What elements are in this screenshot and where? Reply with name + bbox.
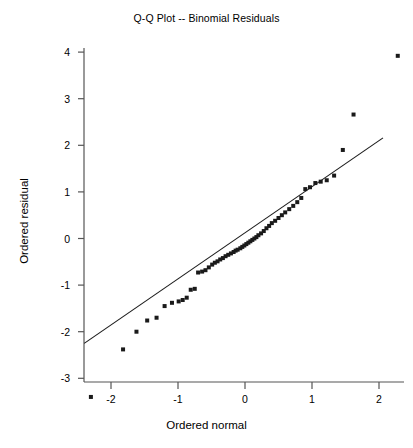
data-point-marker: [313, 181, 317, 185]
data-point-marker: [134, 330, 138, 334]
data-points: [89, 54, 400, 399]
data-point-marker: [299, 196, 303, 200]
data-point-marker: [185, 296, 189, 300]
x-tick-label: 1: [309, 393, 315, 405]
reference-line: [84, 138, 383, 344]
y-tick-label: 1: [64, 186, 70, 198]
data-point-marker: [181, 298, 185, 302]
y-tick-label: 3: [64, 93, 70, 105]
data-point-marker: [319, 180, 323, 184]
data-point-marker: [283, 210, 287, 214]
x-tick-label: 0: [242, 393, 248, 405]
x-tick-label: -1: [173, 393, 182, 405]
y-tick-label: 2: [64, 139, 70, 151]
y-axis-ticks: -3-2-101234: [61, 46, 84, 384]
data-point-marker: [193, 287, 197, 291]
qq-plot-figure: Q-Q Plot -- Binomial Residuals -3-2-1012…: [0, 0, 413, 448]
data-point-marker: [189, 288, 193, 292]
data-point-marker: [287, 207, 291, 211]
data-point-marker: [308, 185, 312, 189]
data-point-marker: [89, 395, 93, 399]
data-point-marker: [145, 319, 149, 323]
data-point-marker: [332, 174, 336, 178]
data-point-marker: [325, 178, 329, 182]
data-point-marker: [295, 200, 299, 204]
y-tick-label: -3: [61, 372, 70, 384]
data-point-marker: [341, 148, 345, 152]
qq-reference-line: [84, 138, 383, 344]
x-axis-ticks: -2-1012: [106, 382, 382, 405]
data-point-marker: [155, 316, 159, 320]
data-point-marker: [170, 301, 174, 305]
axes: [84, 48, 404, 382]
data-point-marker: [196, 271, 200, 275]
y-tick-label: -1: [61, 279, 70, 291]
data-point-marker: [303, 187, 307, 191]
x-axis-label: Ordered normal: [0, 419, 413, 431]
data-point-marker: [177, 299, 181, 303]
plot-canvas: -3-2-101234 -2-1012: [0, 0, 413, 448]
data-point-marker: [163, 304, 167, 308]
data-point-marker: [121, 347, 125, 351]
y-tick-label: 0: [64, 233, 70, 245]
data-point-marker: [352, 113, 356, 117]
x-tick-label: 2: [376, 393, 382, 405]
y-axis-label: Ordered residual: [18, 141, 30, 301]
x-tick-label: -2: [106, 393, 115, 405]
data-point-marker: [291, 204, 295, 208]
y-tick-label: -2: [61, 326, 70, 338]
y-tick-label: 4: [64, 46, 70, 58]
data-point-marker: [396, 54, 400, 58]
